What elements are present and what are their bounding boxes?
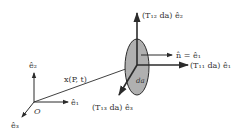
position-vector-line bbox=[34, 66, 134, 102]
t13-label: (T₁₃ da) ê₃ bbox=[92, 103, 133, 112]
origin-label: O bbox=[34, 107, 41, 116]
position-vector-label: x(P, t) bbox=[64, 75, 87, 84]
e2-label: ê₂ bbox=[29, 61, 37, 70]
traction-diagram: ê₂ ê₁ ê₃ O x(P, t) da (T₁₂ da) ê₂ n̂ = ê… bbox=[0, 0, 249, 137]
basis-triad: ê₂ ê₁ ê₃ O bbox=[11, 61, 79, 130]
e3-axis-arrow bbox=[22, 102, 34, 117]
e1-label: ê₁ bbox=[71, 98, 79, 107]
t12-label: (T₁₂ da) ê₂ bbox=[142, 11, 183, 20]
t11-label: (T₁₁ da) ê₁ bbox=[190, 61, 231, 70]
e3-label: ê₃ bbox=[11, 121, 19, 130]
area-element-label: da bbox=[136, 77, 145, 85]
normal-label: n̂ = ê₁ bbox=[176, 51, 201, 60]
